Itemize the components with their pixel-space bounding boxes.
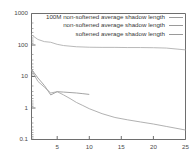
data-series-group — [32, 35, 186, 130]
legend-entry-softened: softened average shadow length — [76, 30, 183, 38]
legend-label-non-softened: non-softened average shadow length — [63, 22, 165, 28]
legend-label-softened: softened average shadow length — [76, 31, 165, 37]
legend-label-100m-non-softened: 100M non-softened average shadow length — [46, 14, 165, 20]
y-tick-100: 100 — [2, 42, 28, 48]
legend-entry-100m-non-softened: 100M non-softened average shadow length — [46, 13, 183, 21]
y-tick-1: 1 — [2, 105, 28, 111]
legend: 100M non-softened average shadow length … — [38, 12, 185, 38]
x-axis-ticks — [57, 136, 185, 140]
legend-entry-non-softened: non-softened average shadow length — [63, 22, 183, 30]
legend-line-sample-icon — [169, 25, 183, 26]
y-tick-10: 10 — [2, 73, 28, 79]
x-tick-15: 15 — [111, 144, 131, 150]
legend-line-sample-icon — [169, 34, 183, 35]
series-line-0 — [32, 69, 90, 95]
series-line-1 — [32, 70, 186, 130]
y-tick-1000: 1000 — [2, 10, 28, 16]
shadow-length-log-chart: 1000 100 10 1 0.1 5 10 15 20 25 100M non… — [0, 0, 195, 161]
x-tick-5: 5 — [47, 144, 67, 150]
x-tick-25: 25 — [176, 144, 196, 150]
y-tick-0.1: 0.1 — [2, 136, 28, 142]
legend-line-sample-icon — [169, 17, 183, 18]
x-tick-20: 20 — [143, 144, 163, 150]
x-tick-10: 10 — [79, 144, 99, 150]
